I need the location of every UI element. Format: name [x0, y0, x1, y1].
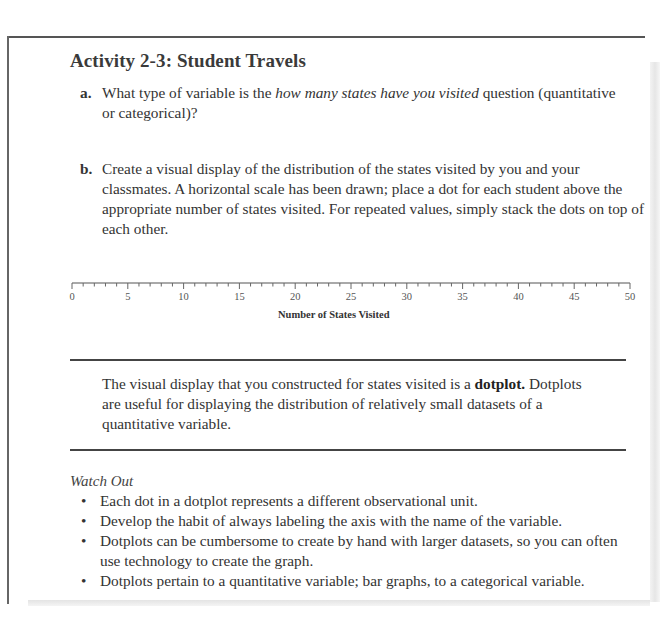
bullet-icon: • — [81, 531, 86, 551]
tick-label: 45 — [569, 291, 580, 302]
watch-out-list: •Each dot in a dotplot represents a diff… — [78, 491, 638, 591]
question-a: a. What type of variable is the how many… — [80, 83, 620, 123]
question-b-label: b. — [80, 159, 92, 179]
bullet-icon: • — [81, 511, 86, 531]
bullet-icon: • — [81, 571, 86, 591]
page-left-rule — [7, 36, 9, 604]
callout-text-start: The visual display that you constructed … — [102, 375, 475, 392]
callout-term: dotplot. — [475, 375, 526, 392]
tick-label: 25 — [346, 291, 357, 302]
list-item-text: Dotplots can be cumbersome to create by … — [100, 532, 618, 569]
page-edge-shadow — [650, 62, 660, 602]
list-item: •Dotplots pertain to a quantitative vari… — [78, 571, 638, 591]
tick-label: 35 — [457, 291, 468, 302]
tick-label: 15 — [234, 291, 245, 302]
tick-label: 40 — [513, 291, 524, 302]
tick-label: 30 — [402, 291, 413, 302]
page-bottom-shadow — [28, 600, 650, 606]
tick-label: 10 — [178, 291, 189, 302]
number-line — [64, 279, 638, 291]
list-item-text: Each dot in a dotplot represents a diffe… — [100, 492, 478, 509]
question-a-text-start: What type of variable is the — [102, 84, 275, 101]
tick-label: 5 — [125, 291, 130, 302]
tick-label: 50 — [625, 291, 636, 302]
activity-title: Activity 2-3: Student Travels — [70, 50, 306, 72]
callout-bottom-rule — [70, 449, 626, 451]
watch-out-heading: Watch Out — [70, 473, 133, 490]
question-a-label: a. — [80, 83, 91, 103]
dotplot-scale[interactable]: 05101520253035404550 — [64, 279, 638, 329]
question-a-emphasis: how many states have you visited — [275, 84, 479, 101]
question-a-text: What type of variable is the how many st… — [80, 83, 620, 123]
bullet-icon: • — [81, 491, 86, 511]
tick-label: 20 — [290, 291, 301, 302]
question-b: b. Create a visual display of the distri… — [80, 159, 650, 239]
tick-label: 0 — [69, 291, 74, 302]
list-item: •Each dot in a dotplot represents a diff… — [78, 491, 638, 511]
list-item-text: Dotplots pertain to a quantitative varia… — [100, 572, 585, 589]
list-item: •Develop the habit of always labeling th… — [78, 511, 638, 531]
question-b-text: Create a visual display of the distribut… — [80, 159, 650, 239]
dotplot-definition-callout: The visual display that you constructed … — [102, 374, 602, 434]
page-top-rule — [7, 36, 645, 38]
axis-title: Number of States Visited — [278, 309, 390, 320]
list-item-text: Develop the habit of always labeling the… — [100, 512, 562, 529]
list-item: •Dotplots can be cumbersome to create by… — [78, 531, 638, 571]
callout-top-rule — [70, 359, 626, 361]
